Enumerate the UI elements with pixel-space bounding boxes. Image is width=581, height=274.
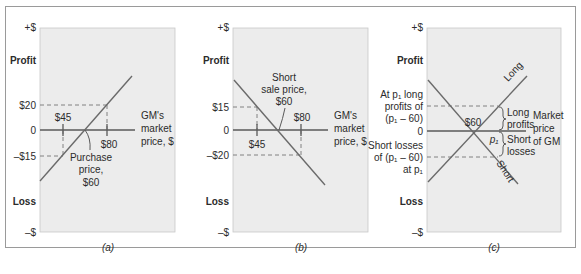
profit-label: Profit [203,55,230,66]
annotation-line1: Purchase [70,152,113,163]
brace-upper-label-line1: Long [507,107,529,118]
x-axis-label-line3: price, $ [334,136,367,147]
figure: +$ Profit $20 0 –$15 Loss –$ $45 $80 GM'… [0,0,581,274]
x-axis-label-line1: Market [533,110,564,121]
y-top-label: +$ [25,22,37,33]
lower-value-label: –$15 [14,151,37,162]
zero-label: 0 [417,126,423,137]
tick-80-label: $80 [101,139,118,150]
annotation-line2: sale price, [261,84,307,95]
panel-caption: (b) [295,242,307,253]
panel-b: +$ Profit $15 0 –$20 Loss –$ $45 $80 GM'… [203,22,368,253]
brace-lower-label-line2: losses [507,146,535,157]
x-axis-label-line2: market [141,123,172,134]
panel-caption: (c) [488,242,500,253]
upper-left-label-line2: profits of [385,101,424,112]
upper-left-label-line3: (p₁ – 60) [385,113,423,124]
lower-left-label-line2: of (p₁ – 60) [374,152,423,163]
y-top-label: +$ [218,22,230,33]
x-axis-label-line3: of GM [533,136,560,147]
loss-label: Loss [400,196,424,207]
x-axis-label-line3: price, $ [141,136,174,147]
y-bottom-label: –$ [25,227,37,238]
zero-label: 0 [30,125,36,136]
y-bottom-label: –$ [218,227,230,238]
panel-c: +$ Profit At p₁ long profits of (p₁ – 60… [368,22,564,253]
annotation-line3: $60 [83,177,100,188]
brace-upper-label-line2: profits [507,119,534,130]
annotation-line1: Short [272,72,296,83]
y-bottom-label: –$ [412,227,424,238]
x-axis-label-line1: GM's [141,110,164,121]
tick-45-label: $45 [55,112,72,123]
brace-lower-label-line1: Short [507,134,531,145]
y-top-label: +$ [412,22,424,33]
x-axis-label-line2: price [533,123,555,134]
tick-80-label: $80 [294,112,311,123]
profit-label: Profit [397,55,424,66]
panel-caption: (a) [102,242,114,253]
center-price-label: $60 [465,117,482,128]
lower-value-label: –$20 [207,150,230,161]
annotation-line2: price, [79,164,103,175]
lower-left-label-line3: at p₁ [403,164,424,175]
upper-left-label-line1: At p₁ long [380,89,423,100]
x-axis-label-line2: market [334,123,365,134]
annotation-line3: $60 [276,96,293,107]
loss-label: Loss [206,196,230,207]
upper-value-label: $20 [19,100,36,111]
profit-label: Profit [10,55,37,66]
tick-45-label: $45 [249,139,266,150]
zero-label: 0 [223,125,229,136]
panel-a: +$ Profit $20 0 –$15 Loss –$ $45 $80 GM'… [10,22,175,253]
loss-label: Loss [13,196,37,207]
x-axis-label-line1: GM's [334,110,357,121]
upper-value-label: $15 [212,102,229,113]
lower-left-label-line1: Short losses [368,140,423,151]
p1-label: p₁ [489,134,499,145]
